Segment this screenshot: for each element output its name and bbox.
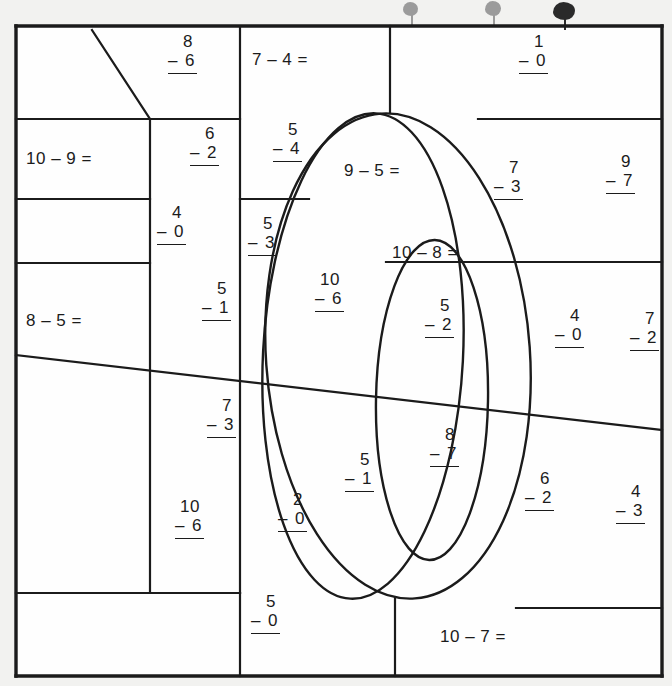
minuend: 5 <box>202 279 231 298</box>
problem-p17[interactable]: 7–2 <box>630 309 659 351</box>
minus-sign-icon: – <box>519 51 529 70</box>
subtrahend-row: –0 <box>278 509 307 532</box>
problem-p13[interactable]: 5–1 <box>202 279 231 321</box>
subtrahend: 0 <box>268 611 278 630</box>
problem-p03[interactable]: 1–0 <box>519 32 548 74</box>
subtrahend: 2 <box>442 315 452 334</box>
problem-p15[interactable]: 5–2 <box>425 296 454 338</box>
subtrahend-row: –1 <box>202 298 231 321</box>
worksheet-page: 8–67 – 4 =1–010 – 9 =6–25–49 – 5 =7–39–7… <box>0 0 672 686</box>
subtrahend-row: –2 <box>630 328 659 351</box>
subtrahend-row: –2 <box>525 488 554 511</box>
problem-p02[interactable]: 7 – 4 = <box>252 50 308 69</box>
minus-sign-icon: – <box>278 509 288 528</box>
subtrahend-row: –3 <box>207 415 236 438</box>
minuend: 10 <box>175 497 204 516</box>
minuend: 4 <box>157 203 186 222</box>
subtrahend: 1 <box>219 298 229 317</box>
subtrahend: 7 <box>447 444 457 463</box>
problem-p08[interactable]: 7–3 <box>494 158 523 200</box>
subtrahend: 1 <box>362 469 372 488</box>
problem-p07[interactable]: 9 – 5 = <box>344 161 400 180</box>
minuend: 6 <box>525 469 554 488</box>
subtrahend-row: –0 <box>251 611 280 634</box>
problem-p26[interactable]: 5–0 <box>251 592 280 634</box>
subtrahend-row: –3 <box>248 233 277 256</box>
minuend: 5 <box>273 120 302 139</box>
minus-sign-icon: – <box>606 171 616 190</box>
subtrahend: 0 <box>295 509 305 528</box>
subtrahend-row: –7 <box>606 171 635 194</box>
problem-p06[interactable]: 5–4 <box>273 120 302 162</box>
subtrahend: 3 <box>224 415 234 434</box>
subtrahend: 3 <box>511 177 521 196</box>
minus-sign-icon: – <box>494 177 504 196</box>
subtrahend-row: –6 <box>168 51 197 74</box>
minus-sign-icon: – <box>157 222 167 241</box>
minus-sign-icon: – <box>190 143 200 162</box>
problem-p24[interactable]: 10–6 <box>175 497 204 539</box>
diag-corner <box>92 30 150 119</box>
problem-p21[interactable]: 5–1 <box>345 450 374 492</box>
subtrahend: 2 <box>542 488 552 507</box>
subtrahend: 4 <box>290 139 300 158</box>
subtrahend-row: –2 <box>190 143 219 166</box>
subtrahend: 2 <box>207 143 217 162</box>
subtrahend: 6 <box>185 51 195 70</box>
problem-p11[interactable]: 5–3 <box>248 214 277 256</box>
minus-sign-icon: – <box>345 469 355 488</box>
problem-p10[interactable]: 4–0 <box>157 203 186 245</box>
problem-p04[interactable]: 10 – 9 = <box>26 149 92 168</box>
problem-p01[interactable]: 8–6 <box>168 32 197 74</box>
subtrahend: 7 <box>623 171 633 190</box>
problem-p19[interactable]: 7–3 <box>207 396 236 438</box>
problem-p27[interactable]: 10 – 7 = <box>440 627 506 646</box>
problem-p18[interactable]: 8 – 5 = <box>26 311 82 330</box>
problem-p09[interactable]: 9–7 <box>606 152 635 194</box>
minuend: 4 <box>555 306 584 325</box>
minuend: 8 <box>430 425 459 444</box>
subtrahend-row: –7 <box>430 444 459 467</box>
problem-p25[interactable]: 2–0 <box>278 490 307 532</box>
subtrahend: 3 <box>633 501 643 520</box>
problem-p14[interactable]: 10–6 <box>315 270 344 312</box>
problem-p22[interactable]: 6–2 <box>525 469 554 511</box>
problem-p23[interactable]: 4–3 <box>616 482 645 524</box>
minus-sign-icon: – <box>630 328 640 347</box>
minus-sign-icon: – <box>248 233 258 252</box>
minuend: 1 <box>519 32 548 51</box>
problem-p16[interactable]: 4–0 <box>555 306 584 348</box>
subtrahend-row: –6 <box>175 516 204 539</box>
subtrahend-row: –2 <box>425 315 454 338</box>
problem-p05[interactable]: 6–2 <box>190 124 219 166</box>
minuend: 4 <box>616 482 645 501</box>
straight-divider-lines <box>16 26 662 676</box>
minuend: 5 <box>251 592 280 611</box>
minuend: 5 <box>345 450 374 469</box>
problem-p20[interactable]: 8–7 <box>430 425 459 467</box>
subtrahend: 0 <box>174 222 184 241</box>
subtrahend-row: –6 <box>315 289 344 312</box>
diag-long <box>16 355 662 430</box>
subtrahend-row: –3 <box>494 177 523 200</box>
minus-sign-icon: – <box>168 51 178 70</box>
subtrahend-row: –1 <box>345 469 374 492</box>
minus-sign-icon: – <box>273 139 283 158</box>
subtrahend: 3 <box>265 233 275 252</box>
subtrahend-row: –3 <box>616 501 645 524</box>
minuend: 7 <box>630 309 659 328</box>
minuend: 5 <box>425 296 454 315</box>
subtrahend: 6 <box>332 289 342 308</box>
subtrahend: 0 <box>572 325 582 344</box>
minuend: 2 <box>278 490 307 509</box>
minus-sign-icon: – <box>315 289 325 308</box>
minus-sign-icon: – <box>525 488 535 507</box>
minuend: 6 <box>190 124 219 143</box>
minus-sign-icon: – <box>430 444 440 463</box>
minus-sign-icon: – <box>251 611 261 630</box>
minuend: 10 <box>315 270 344 289</box>
minus-sign-icon: – <box>207 415 217 434</box>
minus-sign-icon: – <box>425 315 435 334</box>
problem-p12[interactable]: 10 – 8 = <box>392 243 458 262</box>
subtrahend-row: –0 <box>519 51 548 74</box>
